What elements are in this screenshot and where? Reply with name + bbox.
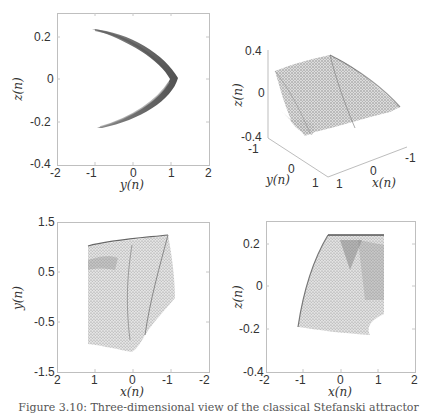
xz-projection-plot	[0, 0, 437, 415]
x-axis-label: x(n)	[328, 385, 352, 399]
ytick-label: -0.2	[239, 323, 260, 335]
figure-caption: Figure 3.10: Three-dimensional view of t…	[0, 401, 437, 415]
xtick-label: -1	[295, 374, 306, 386]
xtick-label: 2	[411, 374, 418, 386]
xtick-label: -2	[259, 374, 270, 386]
xtick-label: 1	[375, 374, 382, 386]
ytick-label: 0	[256, 280, 263, 292]
ytick-label: 0.2	[243, 238, 260, 250]
y-axis-label: z(n)	[231, 285, 245, 308]
